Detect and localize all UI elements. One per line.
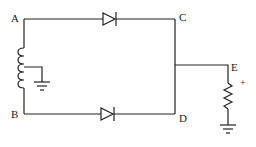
polarity-plus-label: + [240, 77, 246, 88]
top-branch [24, 12, 175, 26]
transformer-secondary-coil [18, 19, 24, 114]
ground-icon [220, 125, 236, 133]
bottom-branch [24, 107, 175, 121]
node-label-d: D [179, 112, 187, 124]
resistor-icon [224, 83, 232, 109]
node-label-b: B [11, 108, 18, 120]
diode-icon-top [103, 12, 116, 26]
node-label-a: A [11, 12, 19, 24]
circuit-diagram: A B C D E + [0, 0, 256, 147]
diode-icon-bottom [101, 107, 114, 121]
node-label-c: C [179, 11, 186, 23]
node-label-e: E [231, 61, 238, 73]
center-tap-ground [24, 67, 50, 90]
